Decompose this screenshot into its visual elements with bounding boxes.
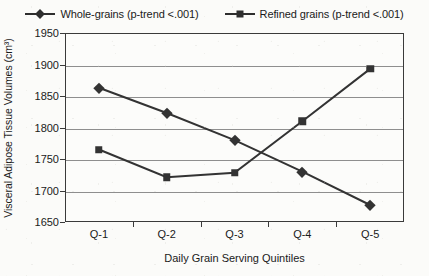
diamond-marker-icon: [25, 8, 55, 20]
x-axis-tick-label: Q-5: [345, 228, 395, 240]
legend-label-whole-grains: Whole-grains (p-trend <.001): [60, 8, 198, 20]
y-axis-title-text: Visceral Adipose Tissue Volumes (cm³): [2, 38, 14, 217]
x-axis-tick-mark: [268, 222, 269, 227]
y-axis-tick-label: 1800: [19, 122, 59, 134]
x-axis-title: Daily Grain Serving Quintiles: [65, 252, 404, 264]
gridline: [66, 129, 403, 130]
x-axis-tick-label: Q-1: [74, 228, 124, 240]
plot-area: [65, 33, 404, 222]
y-axis-tick-label: 1950: [19, 27, 59, 39]
y-axis-tick-label: 1750: [19, 153, 59, 165]
x-axis-tick-label: Q-3: [210, 228, 260, 240]
y-axis-tick-label: 1650: [19, 216, 59, 228]
x-axis-tick-mark: [133, 222, 134, 227]
y-axis-tick-label: 1700: [19, 185, 59, 197]
legend-entry-refined-grains: Refined grains (p-trend <.001): [225, 8, 404, 20]
gridline: [66, 192, 403, 193]
legend-entry-whole-grains: Whole-grains (p-trend <.001): [25, 8, 198, 20]
square-marker-icon: [225, 8, 255, 20]
x-axis-tick-mark: [201, 222, 202, 227]
x-axis-tick-label: Q-4: [277, 228, 327, 240]
chart-figure: Whole-grains (p-trend <.001) Refined gra…: [0, 0, 429, 276]
chart-legend: Whole-grains (p-trend <.001) Refined gra…: [0, 2, 429, 26]
gridline: [66, 160, 403, 161]
legend-label-refined-grains: Refined grains (p-trend <.001): [260, 8, 404, 20]
x-axis-tick-label: Q-2: [142, 228, 192, 240]
x-axis-tick-mark: [336, 222, 337, 227]
y-axis-tick-label: 1900: [19, 59, 59, 71]
y-axis-tick-label: 1850: [19, 90, 59, 102]
y-axis-tick-mark: [60, 222, 65, 223]
y-axis-title: Visceral Adipose Tissue Volumes (cm³): [0, 33, 16, 222]
gridline: [66, 66, 403, 67]
gridline: [66, 97, 403, 98]
